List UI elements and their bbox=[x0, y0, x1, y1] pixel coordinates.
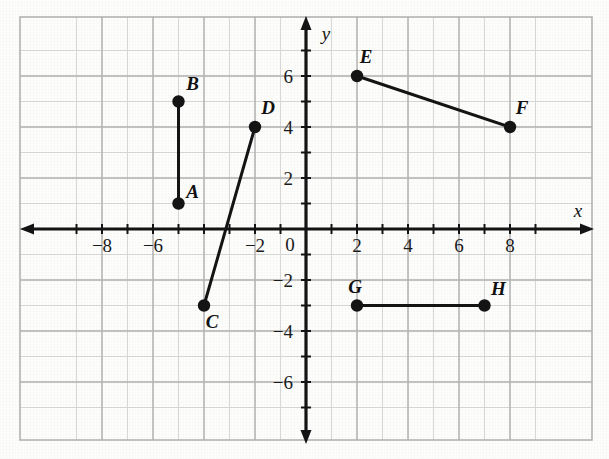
y-tick-label-neg2: −2 bbox=[273, 270, 293, 291]
x-tick-label-4: 4 bbox=[403, 235, 413, 256]
point-label-F: F bbox=[515, 97, 529, 118]
point-B bbox=[172, 95, 184, 107]
y-tick-label-4: 4 bbox=[284, 117, 294, 138]
y-axis-label: y bbox=[320, 23, 331, 44]
y-tick-label-6: 6 bbox=[284, 66, 294, 87]
point-G bbox=[351, 299, 363, 311]
point-label-G: G bbox=[348, 276, 362, 297]
point-E bbox=[351, 70, 363, 82]
x-axis-label: x bbox=[573, 200, 583, 221]
point-D bbox=[249, 121, 261, 133]
x-tick-label-0: 0 bbox=[285, 234, 295, 255]
graph-canvas: −8−6−202468642−2−4−6 ABCDEFGH x y bbox=[0, 0, 609, 459]
point-label-D: D bbox=[260, 97, 275, 118]
x-tick-label-neg2: −2 bbox=[245, 235, 265, 256]
point-F bbox=[504, 121, 516, 133]
coordinate-plane-svg: −8−6−202468642−2−4−6 ABCDEFGH x y bbox=[0, 0, 609, 459]
y-tick-label-neg4: −4 bbox=[273, 321, 294, 342]
point-A bbox=[172, 197, 184, 209]
point-label-E: E bbox=[359, 46, 373, 67]
x-tick-label-neg6: −6 bbox=[143, 235, 163, 256]
point-label-H: H bbox=[490, 278, 507, 299]
point-label-B: B bbox=[185, 73, 199, 94]
y-tick-label-2: 2 bbox=[284, 168, 294, 189]
point-label-A: A bbox=[185, 181, 199, 202]
point-label-C: C bbox=[206, 311, 219, 332]
x-tick-label-2: 2 bbox=[352, 235, 362, 256]
point-H bbox=[478, 299, 490, 311]
x-tick-label-6: 6 bbox=[454, 235, 464, 256]
x-tick-label-8: 8 bbox=[505, 235, 515, 256]
y-tick-label-neg6: −6 bbox=[273, 372, 293, 393]
x-tick-label-neg8: −8 bbox=[92, 235, 112, 256]
